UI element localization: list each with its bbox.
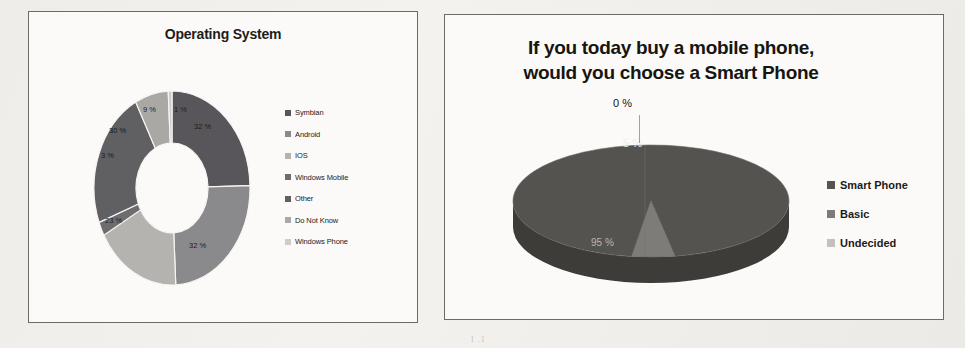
legend-item-label: Basic — [840, 208, 869, 220]
legend-item-label: Undecided — [840, 237, 896, 249]
legend-item-label: Other — [295, 194, 313, 203]
legend-swatch-icon — [827, 239, 835, 247]
chart-title-line-2: would you choose a Smart Phone — [471, 60, 871, 85]
chart-title-smart-phone: If you today buy a mobile phone, would y… — [471, 35, 871, 85]
legend-item-label: IOS — [295, 151, 308, 160]
legend-item-symbian[interactable]: Symbian — [285, 108, 415, 117]
legend-item-label: Windows Mobile — [295, 173, 348, 182]
legend-item-android[interactable]: Android — [285, 130, 415, 139]
legend-item-label: Windows Phone — [295, 237, 348, 246]
legend-smart-phone: Smart PhoneBasicUndecided — [827, 179, 908, 266]
legend-operating-system: SymbianAndroidIOSWindows MobileOtherDo N… — [285, 108, 415, 259]
chart-title-operating-system: Operating System — [29, 26, 417, 42]
smart-phone-chart-panel: If you today buy a mobile phone, would y… — [444, 14, 944, 320]
legend-item-windows-mobile[interactable]: Windows Mobile — [285, 173, 415, 182]
legend-item-windows-phone[interactable]: Windows Phone — [285, 237, 415, 246]
legend-swatch-icon — [285, 110, 291, 116]
legend-swatch-icon — [285, 217, 291, 223]
chart-title-line-1: If you today buy a mobile phone, — [471, 35, 871, 60]
pie-chart-smart-phone — [501, 123, 801, 283]
legend-item-ios[interactable]: IOS — [285, 151, 415, 160]
legend-item-do-not-know[interactable]: Do Not Know — [285, 216, 415, 225]
background-ghost-mark: 1 .1 — [470, 334, 486, 344]
doughnut-chart-svg — [81, 86, 263, 291]
legend-swatch-icon — [285, 239, 291, 245]
legend-swatch-icon — [827, 181, 835, 189]
pie-value-label-undecided: 0 % — [613, 97, 632, 109]
legend-item-undecided[interactable]: Undecided — [827, 237, 908, 249]
doughnut-slice-android — [174, 186, 250, 285]
legend-swatch-icon — [285, 131, 291, 137]
legend-item-label: Smart Phone — [840, 179, 908, 191]
legend-item-label: Android — [295, 130, 320, 139]
legend-item-label: Do Not Know — [295, 216, 338, 225]
operating-system-chart-panel: Operating System 32 % 32 % 23 % 3 % 30 %… — [28, 11, 418, 323]
pie-chart-svg — [501, 123, 801, 283]
legend-item-basic[interactable]: Basic — [827, 208, 908, 220]
legend-item-label: Symbian — [295, 108, 323, 117]
doughnut-chart-operating-system: 32 % 32 % 23 % 3 % 30 % 9 % 1 % — [81, 86, 263, 291]
legend-swatch-icon — [285, 196, 291, 202]
pie-label-leader-line — [639, 115, 640, 143]
legend-swatch-icon — [285, 153, 291, 159]
doughnut-slice-symbian — [172, 91, 250, 187]
legend-swatch-icon — [827, 210, 835, 218]
legend-item-smart-phone[interactable]: Smart Phone — [827, 179, 908, 191]
legend-item-other[interactable]: Other — [285, 194, 415, 203]
legend-swatch-icon — [285, 174, 291, 180]
